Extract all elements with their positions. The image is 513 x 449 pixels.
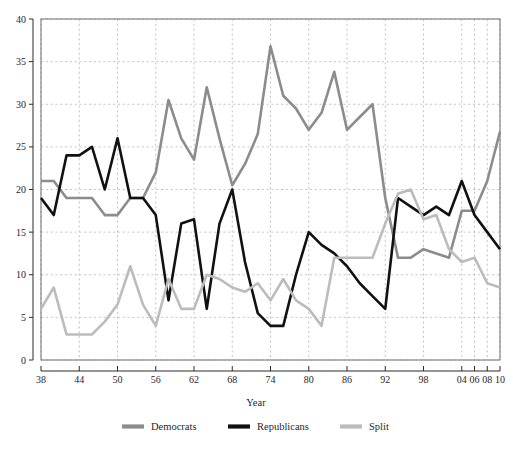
x-axis-tick-label: 56: [151, 374, 161, 385]
y-axis-tick-label: 15: [16, 227, 26, 238]
x-axis-tick-label: 08: [482, 374, 492, 385]
x-axis-tick-label: 10: [495, 374, 505, 385]
x-axis-tick-label: 06: [470, 374, 480, 385]
y-axis-tick-label: 40: [16, 14, 26, 25]
y-axis-tick-label: 5: [21, 312, 26, 323]
x-axis-tick-label: 92: [380, 374, 390, 385]
legend-label-split: Split: [369, 421, 389, 432]
x-axis-tick-label: 50: [113, 374, 123, 385]
x-axis-tick-label: 80: [304, 374, 314, 385]
y-axis-tick-label: 30: [16, 99, 26, 110]
x-axis: 384450566268748086929804060810: [36, 366, 505, 385]
y-axis-tick-label: 0: [21, 355, 26, 366]
y-axis-tick-label: 35: [16, 56, 26, 67]
chart-legend: DemocratsRepublicansSplit: [122, 421, 389, 432]
x-axis-tick-label: 04: [457, 374, 467, 385]
grid-lines: [41, 19, 500, 360]
y-axis-tick-label: 20: [16, 184, 26, 195]
x-axis-tick-label: 98: [419, 374, 429, 385]
x-axis-tick-label: 74: [266, 374, 276, 385]
x-axis-tick-label: 38: [36, 374, 46, 385]
series-lines: [41, 46, 500, 334]
y-axis: 0510152025303540: [16, 14, 33, 366]
legend-label-republicans: Republicans: [257, 421, 309, 432]
chart-container: 0510152025303540 38445056626874808692980…: [0, 0, 513, 449]
x-axis-tick-label: 44: [74, 374, 84, 385]
x-axis-title: Year: [246, 397, 266, 408]
line-chart: 0510152025303540 38445056626874808692980…: [0, 0, 513, 449]
x-axis-tick-label: 86: [342, 374, 352, 385]
x-axis-tick-label: 62: [189, 374, 199, 385]
legend-label-democrats: Democrats: [151, 421, 196, 432]
y-axis-tick-label: 25: [16, 141, 26, 152]
x-axis-tick-label: 68: [227, 374, 237, 385]
y-axis-tick-label: 10: [16, 269, 26, 280]
